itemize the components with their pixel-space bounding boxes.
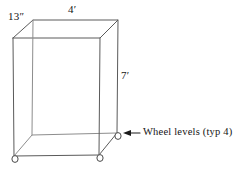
callout-label-wheel-levels: Wheel levels (typ 4) xyxy=(143,127,232,138)
dimension-label-height: 7′ xyxy=(121,70,129,81)
bottom-face-front-edges xyxy=(14,133,117,156)
wheel-back-right-icon xyxy=(115,133,121,140)
wheel-front-left-icon xyxy=(12,156,18,163)
dimension-label-depth: 13″ xyxy=(8,11,24,22)
vertical-edge-back-left xyxy=(32,20,33,135)
dimension-label-width: 4′ xyxy=(68,4,76,15)
wheel-front-right-icon xyxy=(97,155,103,162)
top-face-edges xyxy=(13,20,118,38)
box-wireframe-svg xyxy=(0,0,238,181)
vertical-edge-back-right xyxy=(117,20,118,133)
vertical-edge-front-left xyxy=(13,38,14,156)
box-dimension-diagram: 13″ 4′ 7′ Wheel levels (typ 4) xyxy=(0,0,238,181)
callout-arrow-head-icon xyxy=(123,130,131,136)
vertical-edge-front-right xyxy=(99,38,100,155)
